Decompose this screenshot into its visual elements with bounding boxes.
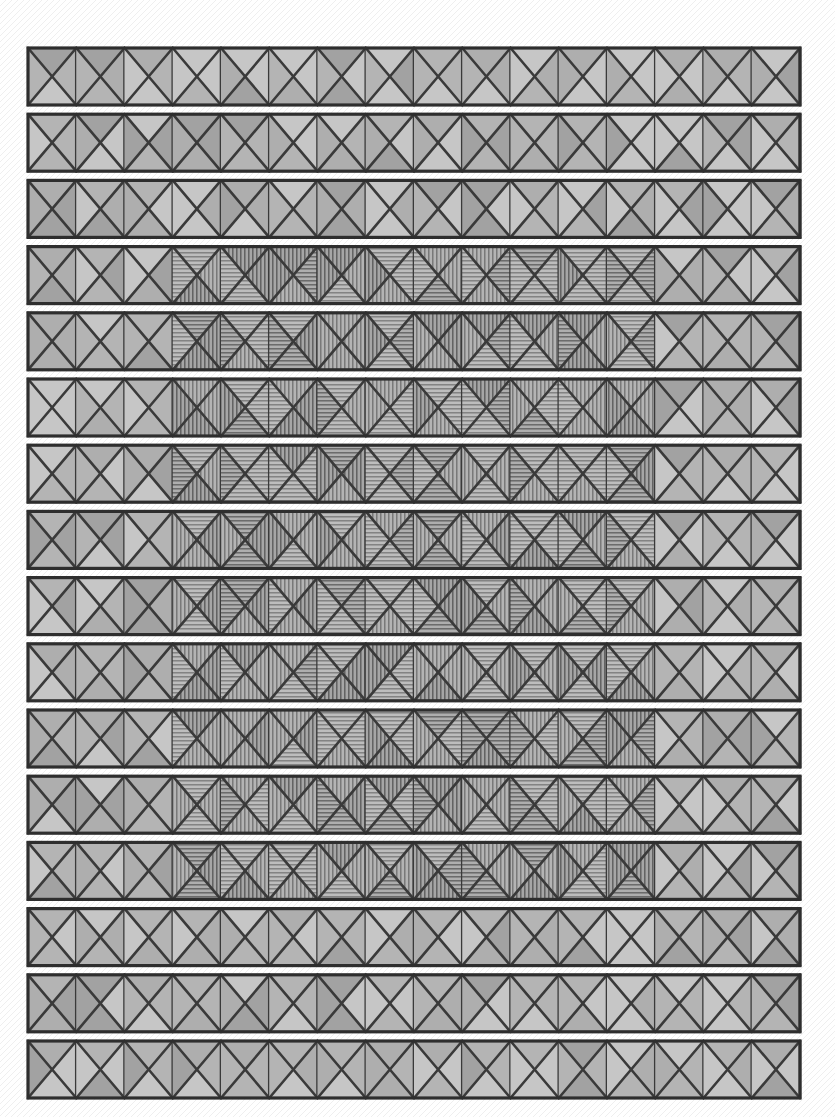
truss-band [28, 48, 800, 105]
truss-band [28, 511, 800, 568]
truss-lattice-figure [0, 0, 835, 1117]
truss-band [28, 578, 800, 635]
lattice-canvas [0, 0, 835, 1117]
truss-band [28, 247, 800, 304]
truss-band [28, 710, 800, 767]
truss-band [28, 180, 800, 237]
truss-band [28, 445, 800, 502]
truss-band [28, 975, 800, 1032]
truss-band [28, 644, 800, 701]
truss-band [28, 842, 800, 899]
truss-band [28, 379, 800, 436]
truss-band [28, 313, 800, 370]
truss-band [28, 776, 800, 833]
truss-band [28, 1041, 800, 1098]
truss-band [28, 114, 800, 171]
truss-band [28, 909, 800, 966]
